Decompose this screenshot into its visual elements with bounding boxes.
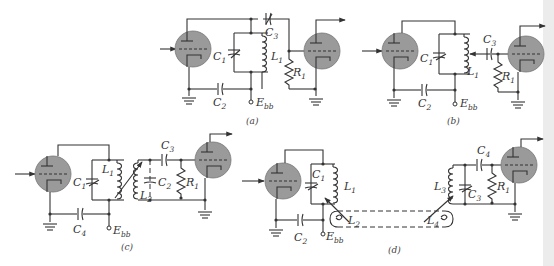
svg-text:C2: C2 bbox=[294, 231, 307, 246]
resistor-r1 bbox=[488, 169, 496, 203]
svg-text:Ebb: Ebb bbox=[255, 96, 274, 111]
svg-text:R1: R1 bbox=[292, 66, 306, 81]
svg-text:R1: R1 bbox=[501, 70, 515, 85]
inductor-l3 bbox=[449, 168, 454, 204]
panel-b: C1 L1 C3 R1 C2 Ebb (b) bbox=[362, 21, 545, 126]
inductor-l1 bbox=[333, 167, 338, 203]
caption-c: (c) bbox=[121, 242, 134, 252]
svg-text:C3: C3 bbox=[265, 26, 278, 41]
ground-icon bbox=[182, 98, 196, 104]
svg-text:C1: C1 bbox=[420, 52, 433, 67]
tube-c-1 bbox=[35, 156, 71, 192]
svg-text:L2: L2 bbox=[139, 189, 152, 204]
resistor-r1 bbox=[177, 164, 185, 198]
svg-text:C3: C3 bbox=[468, 188, 481, 203]
svg-text:C1: C1 bbox=[312, 168, 325, 183]
svg-text:C3: C3 bbox=[161, 139, 174, 154]
svg-text:C2: C2 bbox=[158, 176, 171, 191]
svg-text:C4: C4 bbox=[73, 223, 86, 238]
tube-d-2 bbox=[501, 147, 537, 183]
capacitor-c3 bbox=[162, 154, 167, 166]
svg-text:L1: L1 bbox=[466, 65, 479, 80]
ground-icon bbox=[43, 224, 57, 230]
capacitor-c2 bbox=[218, 83, 223, 95]
svg-text:L4: L4 bbox=[426, 214, 439, 229]
ground-icon bbox=[511, 102, 525, 108]
svg-text:C2: C2 bbox=[213, 96, 226, 111]
capacitor-c2 bbox=[298, 214, 303, 226]
svg-text:L2: L2 bbox=[347, 214, 360, 229]
tube-d-1 bbox=[265, 163, 301, 199]
svg-text:Ebb: Ebb bbox=[325, 230, 344, 245]
svg-text:L1: L1 bbox=[270, 50, 283, 65]
circuit-figure: C1 L1 C3 R1 C2 Ebb (a) bbox=[0, 0, 554, 266]
svg-text:C4: C4 bbox=[477, 144, 490, 159]
svg-text:Ebb: Ebb bbox=[459, 97, 478, 112]
svg-text:L3: L3 bbox=[433, 180, 446, 195]
resistor-r1 bbox=[285, 55, 293, 89]
svg-text:C3: C3 bbox=[483, 33, 496, 48]
svg-text:R1: R1 bbox=[496, 180, 510, 195]
capacitor-c4 bbox=[477, 159, 482, 171]
svg-text:C1: C1 bbox=[213, 50, 226, 65]
svg-text:L1: L1 bbox=[101, 163, 114, 178]
svg-text:Ebb: Ebb bbox=[112, 224, 131, 239]
tube-b-1 bbox=[382, 33, 418, 69]
svg-text:C2: C2 bbox=[418, 97, 431, 112]
svg-text:C1: C1 bbox=[73, 176, 86, 191]
ground-icon bbox=[387, 100, 401, 106]
tube-b-2 bbox=[508, 36, 544, 72]
caption-b: (b) bbox=[447, 116, 460, 126]
ground-icon bbox=[309, 99, 323, 105]
tube-a-2 bbox=[304, 33, 340, 69]
capacitor-c2 bbox=[422, 84, 427, 96]
panel-a: C1 L1 C3 R1 C2 Ebb (a) bbox=[160, 13, 345, 126]
ground-icon bbox=[198, 212, 212, 218]
svg-text:R1: R1 bbox=[185, 176, 199, 191]
resistor-r1 bbox=[494, 58, 502, 92]
tube-a-1 bbox=[175, 31, 211, 67]
capacitor-c4 bbox=[78, 208, 83, 220]
panel-d: C1 L1 L2 C2 Ebb L3 L4 C3 C4 R1 (d) bbox=[242, 139, 543, 255]
ground-icon bbox=[269, 230, 283, 236]
tube-c-2 bbox=[195, 142, 231, 178]
caption-d: (d) bbox=[388, 245, 401, 255]
ground-icon bbox=[508, 214, 522, 220]
inductor-l1 bbox=[262, 36, 267, 72]
caption-a: (a) bbox=[246, 116, 259, 126]
panel-c: C1 L1 L2 C2 C3 R1 C4 Ebb (c) bbox=[15, 134, 232, 252]
svg-text:L1: L1 bbox=[343, 180, 356, 195]
